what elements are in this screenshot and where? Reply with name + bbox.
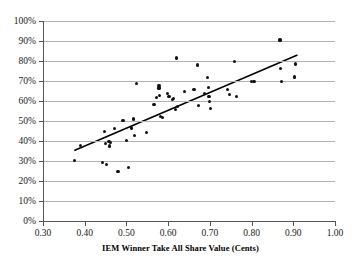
data-point [105, 163, 108, 166]
data-point [121, 119, 124, 122]
data-point [226, 88, 229, 91]
y-axis-tick [39, 181, 43, 182]
x-axis-tick-label: 0.30 [35, 228, 52, 238]
x-axis-tick-label: 0.50 [118, 228, 135, 238]
y-axis-tick [39, 201, 43, 202]
gridline-y [43, 101, 335, 102]
data-point [174, 108, 177, 111]
x-axis-tick-label: 0.80 [243, 228, 260, 238]
data-point [278, 38, 281, 41]
data-point [157, 86, 160, 89]
data-point [161, 116, 164, 119]
data-point [176, 105, 179, 108]
data-point [252, 80, 255, 83]
data-point [279, 67, 282, 70]
data-point [130, 126, 133, 129]
data-point [207, 86, 210, 89]
y-axis-tick-label: 20% [19, 177, 36, 186]
y-axis-tick-label: 10% [19, 197, 36, 206]
data-point [158, 94, 161, 97]
gridline-y [43, 181, 335, 182]
y-axis-tick-label: 60% [19, 97, 36, 106]
y-axis-tick [39, 81, 43, 82]
y-axis-tick [39, 101, 43, 102]
y-axis-tick-label: 90% [19, 37, 36, 46]
x-axis-tick [335, 222, 336, 226]
data-point [208, 100, 211, 103]
x-axis-tick [252, 222, 253, 226]
data-point [207, 95, 210, 98]
data-point [203, 92, 206, 95]
y-axis-tick [39, 161, 43, 162]
gridline-y [43, 41, 335, 42]
data-point [192, 88, 195, 91]
data-point [280, 80, 283, 83]
y-axis-tick-label: 70% [19, 77, 36, 86]
gridline-y [43, 121, 335, 122]
data-point [196, 63, 199, 66]
x-axis-tick-label: 0.40 [76, 228, 93, 238]
x-axis-tick-label: 0.90 [285, 228, 302, 238]
data-point [197, 104, 200, 107]
y-axis-tick [39, 21, 43, 22]
x-axis-tick [126, 222, 127, 226]
data-point [113, 127, 116, 130]
x-axis-tick [293, 222, 294, 226]
data-point [101, 161, 104, 164]
data-point [73, 159, 76, 162]
data-point [209, 107, 212, 110]
data-point [175, 56, 178, 59]
gridline-y [43, 81, 335, 82]
data-point [79, 144, 82, 147]
data-point [152, 103, 155, 106]
y-axis-tick [39, 121, 43, 122]
x-axis-tick [43, 222, 44, 226]
x-axis-tick-label: 1.00 [327, 228, 344, 238]
gridline-y [43, 161, 335, 162]
x-axis-tick-label: 0.70 [202, 228, 219, 238]
data-point [294, 62, 297, 65]
y-axis-tick [39, 141, 43, 142]
y-axis-tick-label: 40% [19, 137, 36, 146]
plot-area [43, 21, 335, 221]
y-axis-tick-label: 30% [19, 157, 36, 166]
data-point [135, 82, 138, 85]
y-axis-tick [39, 41, 43, 42]
trendline-segment [74, 55, 297, 151]
y-axis-tick-labels: 0%10%20%30%40%50%60%70%80%90%100% [0, 0, 36, 265]
data-point [133, 134, 136, 137]
gridline-y [43, 21, 335, 22]
x-axis-line [43, 221, 336, 222]
x-axis-tick [168, 222, 169, 226]
x-axis-tick-label: 0.60 [160, 228, 177, 238]
y-axis-tick [39, 61, 43, 62]
data-point [235, 95, 238, 98]
data-point [293, 75, 296, 78]
x-axis-tick [85, 222, 86, 226]
y-axis-tick-label: 50% [19, 117, 36, 126]
data-point [103, 130, 106, 133]
data-point [116, 170, 119, 173]
data-point [183, 90, 186, 93]
gridline-y [43, 61, 335, 62]
y-axis-tick-label: 0% [23, 217, 36, 226]
x-axis-tick [210, 222, 211, 226]
data-point [127, 166, 130, 169]
data-point [228, 93, 231, 96]
x-axis-title: IEM Winner Take All Share Value (Cents) [0, 243, 361, 253]
data-point [108, 144, 111, 147]
data-point [132, 117, 135, 120]
data-point [206, 76, 209, 79]
data-point [145, 131, 148, 134]
y-axis-tick-label: 100% [14, 17, 36, 26]
data-point [109, 141, 112, 144]
scatter-chart: 0%10%20%30%40%50%60%70%80%90%100% 0.300.… [0, 0, 361, 265]
gridline-y [43, 141, 335, 142]
data-point [172, 97, 175, 100]
y-axis-tick-label: 80% [19, 57, 36, 66]
y-axis-line [43, 21, 44, 222]
gridline-y [43, 201, 335, 202]
data-point [167, 95, 170, 98]
